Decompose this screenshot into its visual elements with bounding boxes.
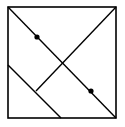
lower-point-dot	[88, 88, 93, 93]
tangram-square-figure: Square with diagonal lines and two marke…	[0, 0, 125, 127]
diagram-canvas	[0, 0, 125, 127]
upper-point-dot	[34, 34, 39, 39]
